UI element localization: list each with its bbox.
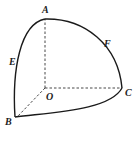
label-C: C — [125, 87, 132, 98]
label-E: E — [8, 56, 16, 67]
label-O: O — [46, 91, 53, 102]
label-B: B — [4, 116, 12, 127]
label-F: F — [103, 38, 111, 49]
spherical-octant-diagram: A F E O C B — [0, 0, 137, 141]
arc-AEB — [14, 19, 45, 117]
label-A: A — [41, 4, 49, 15]
arc-AFC — [45, 19, 122, 88]
segment-OB — [18, 88, 45, 116]
